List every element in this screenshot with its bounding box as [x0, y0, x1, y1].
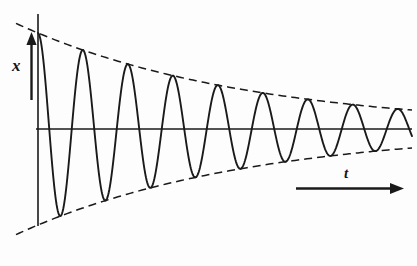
arrow-right-icon: [296, 183, 404, 194]
lower-envelope-curve: [16, 148, 412, 235]
horizontal-axis-label: t: [344, 166, 348, 181]
vertical-axis-label: x: [12, 57, 21, 74]
plot-canvas: [0, 0, 417, 266]
damped-oscillation-figure: x t: [0, 0, 417, 266]
arrow-up-icon: [26, 32, 36, 100]
